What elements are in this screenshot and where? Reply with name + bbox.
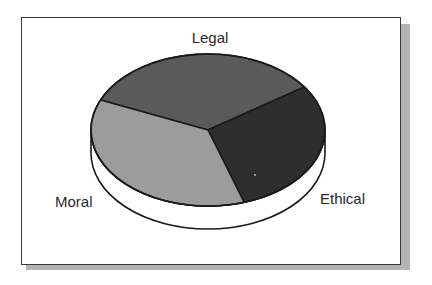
label-legal: Legal	[192, 29, 229, 46]
label-moral: Moral	[55, 193, 93, 210]
pie-chart: Legal Moral Ethical	[0, 0, 432, 285]
speck	[254, 174, 256, 176]
label-ethical: Ethical	[320, 190, 365, 207]
